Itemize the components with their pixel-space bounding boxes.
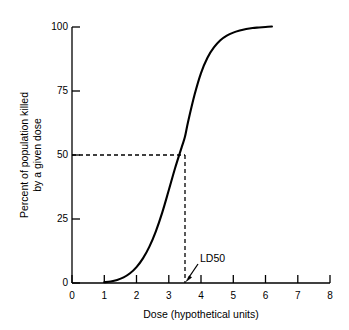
- x-tick-label-2: 2: [134, 291, 140, 301]
- y-tick-label-50: 50: [44, 150, 68, 160]
- x-axis-title: Dose (hypothetical units): [143, 308, 259, 320]
- x-tick-label-7: 7: [295, 291, 301, 301]
- x-tick-label-5: 5: [231, 291, 237, 301]
- x-tick-label-3: 3: [166, 291, 172, 301]
- ld50-annotation-label: LD50: [200, 252, 225, 264]
- y-axis-title-line-2: by a given dose: [31, 92, 44, 218]
- x-tick-label-4: 4: [198, 291, 204, 301]
- y-tick-label-0: 0: [44, 278, 68, 288]
- ld50-arrow: [186, 264, 198, 281]
- x-tick-label-6: 6: [263, 291, 269, 301]
- x-tick-label-0: 0: [69, 291, 75, 301]
- y-axis-title-line-1: Percent of population killed: [18, 92, 30, 218]
- y-tick-label-100: 100: [44, 22, 68, 32]
- x-tick-label-1: 1: [102, 291, 108, 301]
- x-tick-label-8: 8: [327, 291, 333, 301]
- y-tick-label-25: 25: [44, 214, 68, 224]
- ld50-reference-lines: [72, 155, 185, 283]
- dose-response-chart: 100 75 50 25 0 0 1 2 3 4 5 6 7 8 Dose (h…: [0, 0, 349, 330]
- y-tick-label-75: 75: [44, 86, 68, 96]
